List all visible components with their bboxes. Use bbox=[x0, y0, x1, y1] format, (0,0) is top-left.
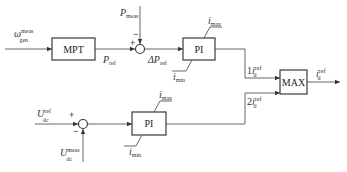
sum1-plus-sign: + bbox=[130, 38, 135, 48]
pi-voltage-block: PI bbox=[132, 112, 166, 135]
summing-junction-voltage bbox=[79, 120, 88, 129]
pi2-i-min-label: imin bbox=[129, 146, 141, 158]
sum1-minus-sign: − bbox=[133, 29, 138, 39]
p-ref-label: Pref bbox=[102, 54, 116, 66]
pi1-i-max-label: imax bbox=[208, 15, 221, 27]
pi2-upper-limit-line bbox=[154, 101, 172, 112]
id-ref-output-label: irefd bbox=[316, 68, 325, 81]
pi1-upper-limit-line bbox=[204, 27, 222, 38]
id1-ref-label: 1irefd bbox=[247, 65, 261, 78]
summing-junction-power bbox=[136, 45, 145, 54]
sum2-minus-sign: − bbox=[73, 126, 78, 136]
udc-ref-label: Urefdc bbox=[37, 108, 51, 123]
p-meas-label: Pmeas bbox=[119, 7, 139, 19]
mpt-block: MPT bbox=[52, 38, 95, 60]
pi2-i-max-label: imax bbox=[159, 89, 172, 101]
pi2-lower-limit-line bbox=[124, 135, 142, 146]
delta-p-ref-label: ΔPref bbox=[147, 54, 167, 66]
udc-meas-label: Umeasdc bbox=[60, 147, 80, 162]
omega-gen-meas-label: ωmeasgen bbox=[14, 28, 34, 43]
control-block-diagram: ωmeasgen MPT Pref Pmeas + − ΔPref PI ima… bbox=[0, 0, 347, 172]
pi-power-label: PI bbox=[195, 44, 204, 55]
pi1-lower-limit-line bbox=[172, 60, 192, 71]
pi-power-block: PI bbox=[183, 38, 215, 60]
pi-voltage-label: PI bbox=[145, 118, 154, 129]
id2-ref-label: 2irefd bbox=[247, 96, 261, 109]
max-block: MAX bbox=[280, 70, 307, 94]
id2-ref-line bbox=[166, 93, 280, 124]
sum2-plus-sign: + bbox=[69, 110, 74, 120]
mpt-label: MPT bbox=[63, 44, 84, 55]
max-label: MAX bbox=[282, 77, 306, 88]
pi1-i-min-label: imin bbox=[173, 71, 185, 83]
